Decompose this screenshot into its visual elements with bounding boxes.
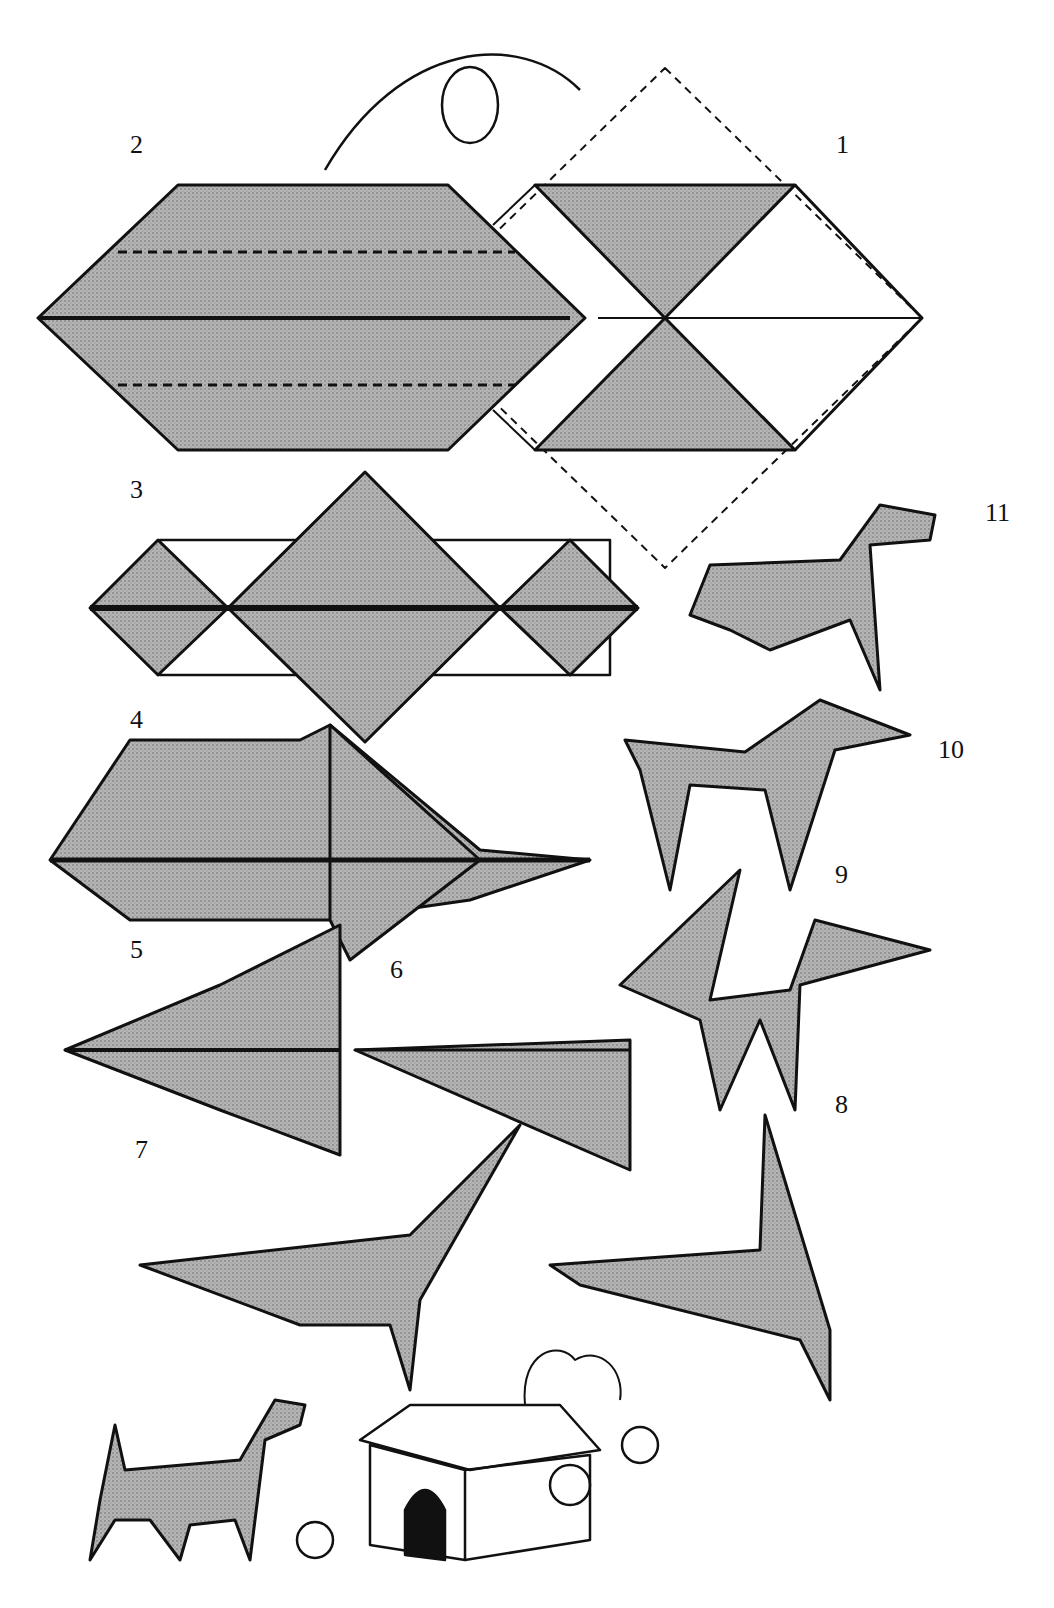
- step-label: 5: [130, 935, 143, 965]
- step-8-figure: [550, 1115, 830, 1400]
- step-label: 4: [130, 705, 143, 735]
- step-label: 8: [835, 1090, 848, 1120]
- step-label: 2: [130, 130, 143, 160]
- step-5-figure: [65, 925, 340, 1155]
- step-9-figure: [620, 870, 930, 1110]
- step-label: 7: [135, 1135, 148, 1165]
- step-label: 11: [985, 498, 1010, 528]
- step-label: 3: [130, 475, 143, 505]
- step-4-figure: [50, 725, 590, 960]
- doghouse-scene: [297, 1350, 658, 1560]
- origami-diagram: 1 2 3 4 5 6 7 8 9 10 11: [0, 0, 1054, 1608]
- finished-dog: [90, 1400, 305, 1560]
- step-7-figure: [140, 1125, 520, 1390]
- step-label: 1: [836, 130, 849, 160]
- step-label: 9: [835, 860, 848, 890]
- step-10-figure: [625, 700, 910, 890]
- step-label: 6: [390, 955, 403, 985]
- step-label: 10: [938, 735, 964, 765]
- step-2-figure: [38, 55, 585, 450]
- diagram-drawing: [0, 0, 1054, 1608]
- step-3-figure: [90, 472, 638, 742]
- step-11-figure: [690, 505, 935, 690]
